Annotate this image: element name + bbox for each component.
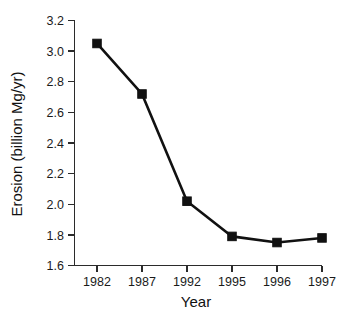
x-axis-title: Year bbox=[181, 293, 211, 310]
x-tick-label-1995: 1995 bbox=[218, 275, 246, 289]
y-tick-label-2-2: 2.2 bbox=[47, 167, 64, 181]
x-tick-label-1987: 1987 bbox=[128, 275, 156, 289]
x-tick-label-1982: 1982 bbox=[83, 275, 111, 289]
y-axis-title: Erosion (billion Mg/yr) bbox=[8, 71, 25, 216]
x-tick-label-1992: 1992 bbox=[173, 275, 201, 289]
data-point-1996 bbox=[273, 238, 282, 247]
y-tick-label-2-4: 2.4 bbox=[47, 137, 64, 151]
y-tick-labels: 3.2 3.0 2.8 2.6 2.4 2.2 2.0 1.8 1.6 bbox=[47, 14, 64, 273]
data-point-1992 bbox=[183, 197, 192, 206]
data-point-1995 bbox=[228, 232, 237, 241]
y-tick-label-3-2: 3.2 bbox=[47, 14, 64, 28]
x-tick-label-1997: 1997 bbox=[308, 275, 336, 289]
x-tick-label-1996: 1996 bbox=[263, 275, 291, 289]
data-point-1997 bbox=[318, 234, 327, 243]
y-tick-label-1-8: 1.8 bbox=[47, 229, 64, 243]
y-tick-label-2-0: 2.0 bbox=[47, 198, 64, 212]
y-tick-label-2-8: 2.8 bbox=[47, 75, 64, 89]
y-tick-label-1-6: 1.6 bbox=[47, 259, 64, 273]
data-point-1987 bbox=[138, 90, 147, 99]
chart-canvas: Erosion (billion Mg/yr) Year 3.2 3.0 2.8… bbox=[0, 0, 354, 322]
y-tick-label-3-0: 3.0 bbox=[47, 45, 64, 59]
y-tick-label-2-6: 2.6 bbox=[47, 106, 64, 120]
erosion-line-chart: Erosion (billion Mg/yr) Year 3.2 3.0 2.8… bbox=[0, 0, 354, 322]
data-point-1982 bbox=[93, 39, 102, 48]
